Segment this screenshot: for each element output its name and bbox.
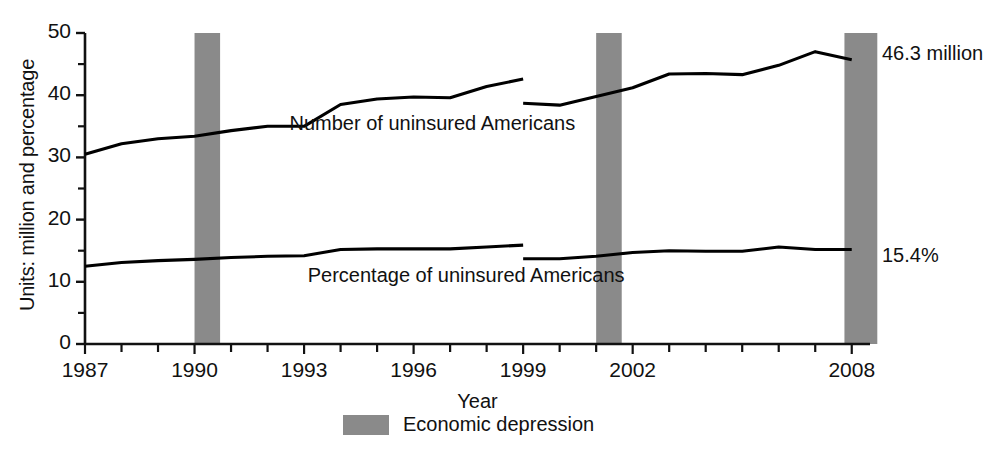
economic-depression-band-3: [844, 33, 877, 344]
x-tick-label-1993: 1993: [264, 358, 344, 382]
y-tick-label-50: 50: [27, 19, 71, 43]
endpoint-label-number-uninsured: 46.3 million: [882, 42, 983, 65]
x-tick-label-1999: 1999: [483, 358, 563, 382]
series-label-number-uninsured: Number of uninsured Americans: [289, 112, 575, 135]
legend-label-economic-depression: Economic depression: [403, 413, 594, 436]
x-tick-label-2002: 2002: [593, 358, 673, 382]
series-line-0-segment-1: [523, 52, 852, 105]
y-tick-label-0: 0: [27, 330, 71, 354]
x-tick-label-1987: 1987: [45, 358, 125, 382]
endpoint-label-percentage-uninsured: 15.4%: [882, 244, 939, 267]
y-tick-label-40: 40: [27, 81, 71, 105]
y-tick-label-20: 20: [27, 206, 71, 230]
series-line-1-segment-1: [523, 247, 852, 259]
x-axis-title: Year: [418, 390, 538, 413]
y-tick-label-30: 30: [27, 143, 71, 167]
series-label-percentage-uninsured: Percentage of uninsured Americans: [308, 264, 625, 287]
x-tick-label-1990: 1990: [155, 358, 235, 382]
series-line-1-segment-0: [85, 245, 523, 266]
chart-legend: Economic depression: [343, 413, 594, 436]
y-tick-label-10: 10: [27, 268, 71, 292]
legend-swatch-economic-depression: [343, 415, 389, 435]
x-tick-label-2008: 2008: [812, 358, 892, 382]
x-tick-label-1996: 1996: [374, 358, 454, 382]
economic-depression-bands: [195, 33, 878, 344]
economic-depression-band-1: [195, 33, 221, 344]
economic-depression-band-2: [596, 33, 622, 344]
chart-figure: Units: million and percentage 5040302010…: [0, 0, 1000, 463]
